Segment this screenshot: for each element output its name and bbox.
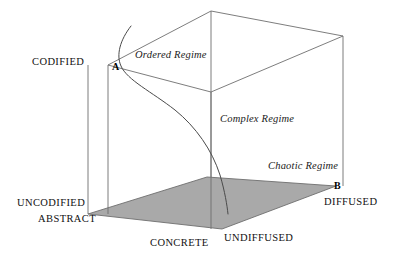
axis-label-concrete: CONCRETE <box>150 238 209 249</box>
floor-plane-shaded <box>88 177 336 229</box>
vertex-label-b: B <box>334 181 341 191</box>
vertex-label-a: A <box>112 62 119 72</box>
axis-label-codified: CODIFIED <box>32 57 84 68</box>
axis-label-undiffused: UNDIFFUSED <box>224 233 293 244</box>
i-space-diagram: CODIFIED A UNCODIFIED ABSTRACT CONCRETE … <box>0 0 394 260</box>
axis-label-diffused: DIFFUSED <box>324 197 377 208</box>
cube-top-edge-right-front <box>211 36 343 92</box>
axis-label-uncodified: UNCODIFIED <box>17 198 85 209</box>
regime-label-ordered: Ordered Regime <box>135 50 207 61</box>
regime-label-complex: Complex Regime <box>220 114 294 125</box>
cube-top-edge-front-left <box>108 65 211 92</box>
cube-top-edge-back-right <box>211 11 343 36</box>
regime-label-chaotic: Chaotic Regime <box>268 161 338 172</box>
axis-label-abstract: ABSTRACT <box>38 214 96 225</box>
